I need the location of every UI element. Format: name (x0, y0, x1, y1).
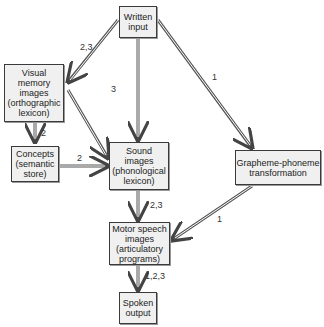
node-spoken-output: Spoken output (119, 292, 157, 324)
edge-label-written-sound: 3 (111, 84, 116, 94)
edge-label-visual-concepts: 2 (41, 128, 46, 138)
node-sound-images: Sound images (phonological lexicon) (109, 142, 169, 190)
node-concepts: Concepts (semantic store) (11, 146, 59, 182)
edge-label-concepts-sound: 2 (77, 153, 82, 163)
edge-label-motor-spoken: 1,2,3 (145, 271, 165, 281)
node-grapheme-phoneme: Grapheme-phoneme transformation (235, 150, 321, 185)
node-motor-speech: Motor speech images (articulatory progra… (109, 222, 170, 265)
edge-label-written-visual: 2,3 (80, 42, 93, 52)
node-written-input: Written input (119, 6, 157, 38)
edge-label-grapheme-motor: 1 (217, 214, 222, 224)
edge-label-sound-motor: 2,3 (150, 200, 163, 210)
edge-label-written-grapheme: 1 (212, 72, 217, 82)
node-visual-memory: Visual memory images (orthographic lexic… (4, 64, 64, 122)
